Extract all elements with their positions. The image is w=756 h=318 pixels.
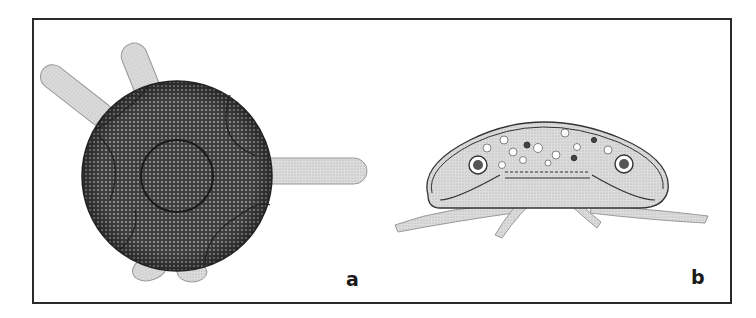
- figure-illustration: [0, 0, 756, 318]
- panel-b-cell: [395, 122, 708, 238]
- panel-label-b: b: [691, 266, 705, 288]
- panel-a-cell: [36, 39, 367, 285]
- panel-label-a: a: [346, 268, 359, 290]
